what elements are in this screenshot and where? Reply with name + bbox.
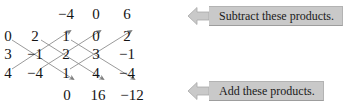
matrix-cell-r3c5: −4 [119, 66, 135, 81]
bottom-result-2: 16 [91, 88, 106, 103]
bottom-result-1: 0 [63, 88, 71, 103]
arrow-left-icon [187, 6, 209, 26]
matrix-cell-r2c3: 2 [62, 47, 70, 62]
matrix-cell-r2c1: 3 [4, 47, 12, 62]
matrix-cell-r2c2: −1 [27, 47, 43, 62]
matrix-cell-r2c5: −1 [119, 47, 135, 62]
matrix-cell-r3c3: 1 [62, 66, 70, 81]
matrix-cell-r1c4: 0 [92, 29, 100, 44]
arrow-left-icon [187, 81, 209, 101]
matrix-cell-r2c4: 3 [92, 47, 100, 62]
callout-add: Add these products. [187, 81, 324, 101]
determinant-diagonal-figure: −4 0 6 0 2 1 0 2 3 −1 2 3 −1 4 −4 1 4 −4… [0, 0, 357, 107]
callout-subtract-label: Subtract these products. [219, 10, 334, 22]
top-result-3: 6 [123, 7, 131, 22]
bottom-result-3: −12 [120, 88, 143, 103]
callout-subtract-body: Subtract these products. [209, 6, 343, 26]
callout-add-label: Add these products. [219, 85, 315, 97]
callout-subtract: Subtract these products. [187, 6, 343, 26]
matrix-cell-r1c1: 0 [4, 29, 12, 44]
matrix-cell-r3c4: 4 [92, 66, 100, 81]
matrix-cell-r3c1: 4 [4, 66, 12, 81]
up-diagonal-2 [40, 31, 100, 69]
callout-add-body: Add these products. [209, 81, 324, 101]
matrix-cell-r1c2: 2 [31, 29, 39, 44]
top-result-2: 0 [92, 7, 100, 22]
matrix-cell-r1c5: 2 [123, 29, 131, 44]
top-result-1: −4 [58, 7, 74, 22]
matrix-cell-r1c3: 1 [62, 29, 70, 44]
matrix-cell-r3c2: −4 [27, 66, 43, 81]
